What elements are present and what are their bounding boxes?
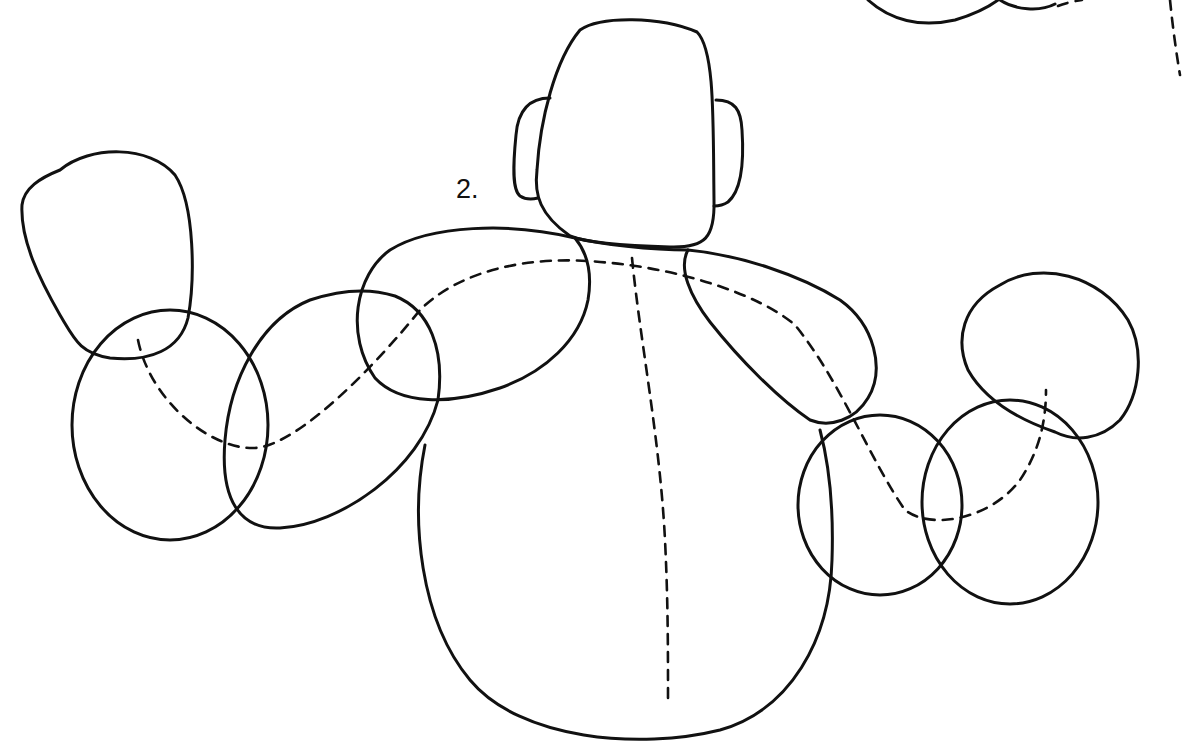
gesture-line-top-right	[1058, 0, 1082, 6]
right-shoulder-shape	[684, 250, 876, 423]
figure-drawing	[0, 0, 1182, 744]
head-shape	[536, 20, 714, 247]
left-shoulder-shape	[357, 228, 589, 400]
right-forearm-shape	[922, 400, 1098, 604]
gesture-line-right-edge	[1170, 0, 1180, 75]
gesture-line-spine	[632, 258, 668, 700]
torso-shape	[419, 430, 833, 739]
partial-shape-top-right-2	[1000, 0, 1055, 9]
left-hand-shape	[22, 152, 192, 359]
right-hand-shape	[962, 273, 1138, 438]
right-ear-shape	[714, 100, 743, 206]
partial-shape-top-right	[868, 0, 998, 23]
gesture-line-arms	[138, 260, 1046, 520]
